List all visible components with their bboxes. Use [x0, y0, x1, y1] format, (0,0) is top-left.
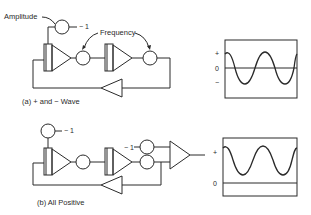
integrator-1-icon — [44, 148, 52, 175]
bias-input-label: − 1 — [124, 144, 134, 151]
bias-potentiometer-icon — [140, 140, 154, 154]
feedback-wire — [33, 60, 101, 88]
diagram-b: − 1 − 1 (b) All Positive + — [33, 124, 297, 207]
feedback-wire — [122, 162, 161, 185]
frequency-potentiometer-2-icon — [143, 51, 157, 65]
feedback-wire — [122, 58, 170, 88]
scope-b-waveform — [223, 146, 297, 175]
integrator-2-amp-icon — [113, 149, 132, 175]
pot-input-label: − 1 — [79, 23, 89, 30]
pot-output-line — [48, 27, 55, 44]
diagram-a: Amplitude − 1 Frequency (a) — [4, 12, 297, 106]
integrator-2-amp-icon — [113, 45, 132, 71]
amplitude-potentiometer-icon — [41, 124, 55, 138]
amplitude-potentiometer-icon — [55, 20, 69, 34]
caption-a: (a) + and − Wave — [22, 97, 80, 106]
frequency-potentiometer-1-icon — [76, 51, 90, 65]
frequency-potentiometer-2-icon — [140, 155, 154, 169]
frequency-arrow-2 — [135, 33, 149, 48]
amplitude-label: Amplitude — [4, 12, 37, 21]
scope-b-plus-label: + — [213, 149, 217, 156]
analog-computer-diagram: Amplitude − 1 Frequency (a) — [0, 0, 311, 215]
scope-b-zero-label: 0 — [213, 180, 217, 187]
integrator-1-icon — [44, 44, 52, 71]
inverter-icon — [101, 176, 122, 194]
scope-a-zero-label: 0 — [215, 65, 219, 72]
scope-a-minus-label: − — [215, 79, 219, 86]
scope-a-plus-label: + — [215, 50, 219, 57]
integrator-1-amp-icon — [52, 149, 71, 175]
pot-input-label: − 1 — [64, 127, 74, 134]
frequency-potentiometer-1-icon — [76, 155, 90, 169]
feedback-wire — [33, 163, 101, 185]
arrowhead-icon — [147, 45, 151, 50]
summing-amplifier-icon — [170, 141, 190, 169]
frequency-arrow-1 — [84, 33, 98, 48]
integrator-1-amp-icon — [52, 45, 71, 71]
amplitude-leader-line — [42, 17, 55, 24]
integrator-2-icon — [105, 148, 113, 175]
caption-b: (b) All Positive — [37, 198, 85, 207]
arrowhead-icon — [82, 45, 86, 50]
inverter-icon — [101, 79, 122, 97]
frequency-label: Frequency — [100, 28, 136, 37]
integrator-2-icon — [105, 44, 113, 71]
